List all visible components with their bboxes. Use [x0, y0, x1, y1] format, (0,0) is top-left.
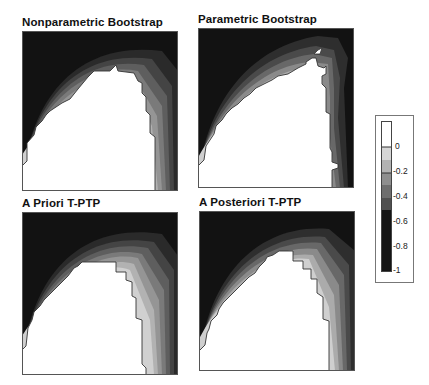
colorbar-tick-neg0.6: -0.6 — [393, 216, 408, 226]
panel-title-nonparametric-bootstrap: Nonparametric Bootstrap — [22, 16, 163, 28]
colorbar — [381, 121, 392, 272]
colorbar-tick-neg0.4: -0.4 — [393, 191, 408, 201]
panel-title-parametric-bootstrap: Parametric Bootstrap — [198, 13, 317, 25]
contour-plot-nonparametric-bootstrap — [22, 31, 178, 191]
colorbar-tick-neg0.2: -0.2 — [393, 166, 408, 176]
contour-plot-parametric-bootstrap — [198, 28, 354, 188]
panel-title-a-priori-t-ptp: A Priori T-PTP — [22, 197, 100, 209]
panel-title-a-posteriori-t-ptp: A Posteriori T-PTP — [199, 196, 301, 208]
colorbar-tick-neg1: -1 — [393, 265, 401, 275]
contour-plot-a-priori-t-ptp — [22, 212, 178, 375]
colorbar-tick-neg0.8: -0.8 — [393, 241, 408, 251]
colorbar-tick-0: 0 — [395, 141, 400, 151]
contour-plot-a-posteriori-t-ptp — [199, 211, 355, 371]
